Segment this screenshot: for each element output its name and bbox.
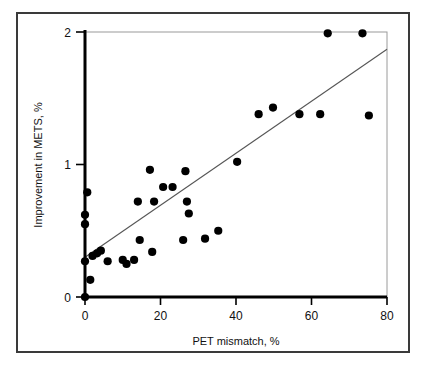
data-point: [181, 167, 189, 175]
data-point: [168, 183, 176, 191]
x-axis-title: PET mismatch, %: [192, 335, 279, 347]
y-axis-title: Improvement in METS, %: [32, 102, 44, 228]
data-point: [269, 103, 277, 111]
y-tick-label: 0: [64, 291, 71, 305]
data-point: [324, 29, 332, 37]
data-point: [148, 248, 156, 256]
data-point: [179, 236, 187, 244]
data-point: [201, 235, 209, 243]
data-point: [255, 110, 263, 118]
data-point: [134, 198, 142, 206]
data-point: [316, 110, 324, 118]
data-point: [104, 257, 112, 265]
data-point: [136, 236, 144, 244]
figure-root: 012 020406080 PET mismatch, % Improvemen…: [0, 0, 425, 365]
data-point: [183, 198, 191, 206]
data-point: [185, 209, 193, 217]
data-point: [86, 276, 94, 284]
data-point: [130, 256, 138, 264]
data-point: [365, 111, 373, 119]
data-point: [295, 110, 303, 118]
data-point: [150, 198, 158, 206]
x-tick-label: 80: [380, 309, 394, 323]
data-point: [233, 158, 241, 166]
data-point: [159, 183, 167, 191]
data-point: [97, 247, 105, 255]
x-tick-label: 0: [82, 309, 89, 323]
scatter-chart: 012 020406080 PET mismatch, % Improvemen…: [0, 0, 425, 365]
data-point: [146, 166, 154, 174]
x-tick-label: 20: [154, 309, 168, 323]
data-point: [214, 227, 222, 235]
x-tick-label: 60: [305, 309, 319, 323]
y-tick-label: 1: [64, 158, 71, 172]
data-point: [358, 29, 366, 37]
data-point: [122, 260, 130, 268]
y-tick-label: 2: [64, 26, 71, 40]
x-axis-ticks: 020406080: [82, 297, 394, 323]
x-tick-label: 40: [229, 309, 243, 323]
